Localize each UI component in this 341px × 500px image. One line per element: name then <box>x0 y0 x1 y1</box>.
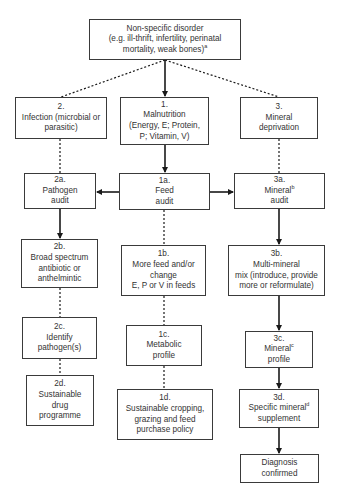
step-1d-line-3: purchase policy <box>137 425 194 436</box>
step-1d-line-1: Sustainable cropping, <box>126 404 205 415</box>
step-2b-id: 2b. <box>54 242 65 253</box>
root-line-1: Non-specific disorder <box>127 24 204 35</box>
step-1a-line-2: audit <box>156 197 174 208</box>
sustainable-cropping-box: 1d. Sustainable cropping, grazing and fe… <box>117 389 213 440</box>
diagnosis-confirmed-box: Diagnosis confirmed <box>240 454 319 483</box>
step-1a-id: 1a. <box>159 176 170 187</box>
malnutrition-line-1: Malnutrition <box>143 110 185 121</box>
malnutrition-line-2: (Energy, E; Protein, <box>129 121 200 132</box>
step-1b-line-3: E, P or V in feeds <box>132 281 196 292</box>
diagnosis-line-1: Diagnosis <box>262 458 298 469</box>
step-2b-line-2: antibiotic or <box>39 264 81 275</box>
step-2d-line-3: programme <box>39 411 81 422</box>
step-2d-line-1: Sustainable <box>39 390 82 401</box>
multi-mineral-box: 3b. Multi-mineral mix (introduce, provid… <box>228 245 325 296</box>
identify-pathogen-box: 2c. Identify pathogen(s) <box>22 317 97 359</box>
malnutrition-box: 1. Malnutrition (Energy, E; Protein, P; … <box>120 97 209 145</box>
infection-number: 2. <box>58 102 65 113</box>
mineral-deprivation-number: 3. <box>276 102 283 113</box>
step-3b-line-2: mix (introduce, provide <box>235 271 318 282</box>
sustainable-drug-box: 2d. Sustainable drug programme <box>26 375 94 426</box>
step-3d-line-1-wrap: Specific minerald <box>249 403 310 414</box>
step-2c-line-2: pathogen(s) <box>38 343 82 354</box>
more-feed-box: 1b. More feed and/or change E, P or V in… <box>121 245 206 296</box>
infection-line-2: parasitic) <box>44 123 77 134</box>
step-2b-line-1: Broad spectrum <box>31 253 89 264</box>
step-3a-line-1: Mineral <box>265 186 292 195</box>
step-1b-line-1: More feed and/or <box>132 260 194 271</box>
step-3c-id: 3c. <box>274 334 285 345</box>
step-3b-line-3: more or reformulate) <box>239 281 314 292</box>
mineral-deprivation-line-2: deprivation <box>259 123 299 134</box>
mineral-audit-box: 3a. Mineralb audit <box>234 173 325 209</box>
step-3c-line-1-wrap: Mineralc <box>264 344 294 355</box>
footnote-b: b <box>291 184 294 190</box>
dashed-connector-root-to-3 <box>165 60 279 97</box>
step-3b-id: 3b. <box>271 249 282 260</box>
pathogen-audit-box: 2a. Pathogen audit <box>24 173 96 209</box>
step-3b-line-1: Multi-mineral <box>253 260 300 271</box>
specific-mineral-box: 3d. Specific minerald supplement <box>239 389 319 428</box>
step-1d-id: 1d. <box>159 393 170 404</box>
mineral-deprivation-line-1: Mineral <box>266 113 293 124</box>
step-1a-line-1: Feed <box>155 186 174 197</box>
root-line-3-wrap: mortality, weak bones)a <box>123 45 207 56</box>
step-3c-line-2: profile <box>268 355 290 366</box>
step-3a-line-1-wrap: Mineralb <box>265 186 295 197</box>
step-2d-line-2: drug <box>52 401 68 412</box>
mineral-profile-box: 3c. Mineralc profile <box>245 331 313 368</box>
step-3d-line-1: Specific mineral <box>249 403 307 412</box>
mineral-deprivation-box: 3. Mineral deprivation <box>240 97 318 139</box>
step-2a-line-2: audit <box>51 196 69 207</box>
step-1c-id: 1c. <box>159 330 170 341</box>
metabolic-profile-box: 1c. Metabolic profile <box>126 325 202 366</box>
root-line-3: mortality, weak bones) <box>123 45 204 54</box>
step-1b-id: 1b. <box>158 249 169 260</box>
infection-line-1: Infection (microbial or <box>22 113 100 124</box>
dashed-connector-root-to-2 <box>61 60 165 97</box>
root-disorder-box: Non-specific disorder (e.g. ill-thrift, … <box>89 19 241 60</box>
step-1c-line-1: Metabolic <box>146 340 181 351</box>
step-3a-id: 3a. <box>274 175 285 186</box>
step-3d-id: 3d. <box>273 393 284 404</box>
step-1d-line-2: grazing and feed <box>135 415 196 426</box>
step-2a-id: 2a. <box>54 175 65 186</box>
footnote-a: a <box>204 43 207 49</box>
step-2c-line-1: Identify <box>46 333 72 344</box>
diagnosis-line-2: confirmed <box>262 469 298 480</box>
infection-box: 2. Infection (microbial or parasitic) <box>15 97 107 139</box>
step-3a-line-2: audit <box>271 196 289 207</box>
step-2b-line-3: anthelmintic <box>38 274 82 285</box>
footnote-d: d <box>306 401 309 407</box>
step-3c-line-1: Mineral <box>264 344 291 353</box>
step-2d-id: 2d. <box>54 379 65 390</box>
malnutrition-number: 1. <box>161 100 168 111</box>
feed-audit-box: 1a. Feed audit <box>119 173 210 210</box>
malnutrition-line-3: P; Vitamin, V) <box>140 132 190 143</box>
step-3d-line-2: supplement <box>258 414 300 425</box>
step-1b-line-2: change <box>150 271 177 282</box>
step-2a-line-1: Pathogen <box>42 186 77 197</box>
footnote-c: c <box>291 342 294 348</box>
step-1c-line-2: profile <box>153 351 175 362</box>
step-2c-id: 2c. <box>54 322 65 333</box>
broad-spectrum-box: 2b. Broad spectrum antibiotic or anthelm… <box>21 239 98 288</box>
